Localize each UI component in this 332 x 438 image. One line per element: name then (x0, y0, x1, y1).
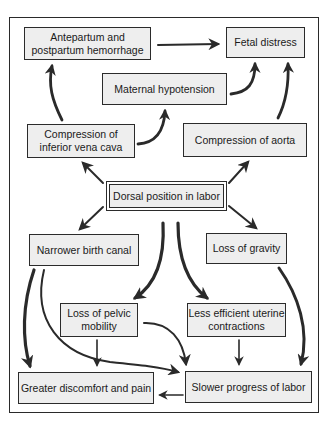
arrow-dorsal-to-less-efficient (178, 223, 207, 298)
arrow-dorsal-to-ivc (83, 163, 103, 183)
arrow-antepartum-to-fetal (158, 44, 218, 45)
node-loss-pelvic-mobility: Loss of pelvic mobility (60, 303, 138, 337)
node-loss-of-gravity: Loss of gravity (206, 233, 287, 264)
node-label: Dorsal position in labor (113, 190, 220, 203)
arrow-dorsal-to-aorta (229, 162, 248, 183)
arrow-narrower-to-discomfort (24, 270, 34, 366)
node-slower-progress: Slower progress of labor (185, 371, 312, 403)
node-label: Fetal distress (234, 36, 296, 49)
node-antepartum-hemorrhage: Antepartum and postpartum hemorrhage (24, 27, 151, 60)
arrow-ivc-to-antepartum (50, 66, 62, 120)
node-greater-discomfort: Greater discomfort and pain (18, 372, 154, 404)
arrow-aorta-to-fetal (278, 64, 288, 118)
node-label: Loss of pelvic mobility (61, 307, 137, 333)
arrow-pelvic-to-slower (144, 323, 186, 364)
node-compression-ivc: Compression of inferior vena cava (27, 124, 135, 158)
node-label: Compression of inferior vena cava (28, 128, 134, 154)
node-narrower-birth-canal: Narrower birth canal (29, 234, 139, 266)
arrow-hypotension-to-fetal (231, 64, 255, 94)
arrow-dorsal-to-pelvic (135, 223, 163, 298)
node-maternal-hypotension: Maternal hypotension (102, 73, 227, 105)
node-label: Maternal hypotension (114, 83, 214, 96)
node-fetal-distress: Fetal distress (226, 27, 305, 58)
node-label: Antepartum and postpartum hemorrhage (25, 31, 150, 57)
node-label: Less efficient uterine contractions (188, 307, 285, 333)
node-label: Compression of aorta (195, 134, 295, 147)
node-compression-aorta: Compression of aorta (183, 123, 307, 157)
node-label: Loss of gravity (213, 242, 281, 255)
node-label: Narrower birth canal (37, 244, 132, 257)
node-dorsal-position: Dorsal position in labor (109, 184, 224, 208)
node-label: Slower progress of labor (192, 381, 306, 394)
node-less-efficient-contractions: Less efficient uterine contractions (187, 303, 286, 337)
arrow-dorsal-to-gravity (229, 206, 256, 228)
arrow-ivc-to-hypotension (138, 111, 165, 144)
node-label: Greater discomfort and pain (21, 382, 151, 395)
arrow-dorsal-to-narrower (80, 207, 103, 229)
